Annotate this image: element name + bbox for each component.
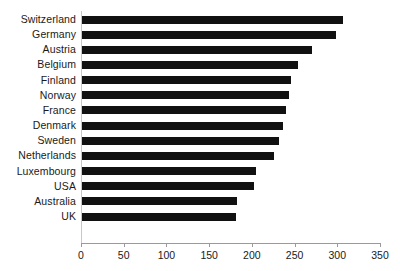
grid-tick xyxy=(81,11,82,243)
bar-row: UK xyxy=(0,209,400,224)
bar-row: Sweden xyxy=(0,133,400,148)
axis-tick xyxy=(81,243,82,247)
bar xyxy=(81,76,291,84)
bar xyxy=(81,167,256,175)
category-label: USA xyxy=(0,179,76,194)
grid-tick xyxy=(295,11,296,243)
category-label: Belgium xyxy=(0,57,76,72)
bar xyxy=(81,16,343,24)
bar-row: Luxembourg xyxy=(0,164,400,179)
category-label: Germany xyxy=(0,27,76,42)
grid-tick xyxy=(337,11,338,243)
category-label: Austria xyxy=(0,42,76,57)
axis-tick xyxy=(166,243,167,247)
axis-tick-label: 250 xyxy=(286,249,304,261)
bar xyxy=(81,46,312,54)
bar xyxy=(81,213,236,221)
bar-row: USA xyxy=(0,179,400,194)
grid-tick xyxy=(209,11,210,243)
bar xyxy=(81,91,289,99)
category-label: UK xyxy=(0,209,76,224)
grid-tick xyxy=(124,11,125,243)
axis-tick xyxy=(295,243,296,247)
category-label: Norway xyxy=(0,88,76,103)
bar-row: Austria xyxy=(0,42,400,57)
bar-row: Belgium xyxy=(0,57,400,72)
category-label: Luxembourg xyxy=(0,164,76,179)
bar xyxy=(81,106,286,114)
grid-tick xyxy=(166,11,167,243)
axis-tick-label: 150 xyxy=(200,249,218,261)
bar xyxy=(81,137,279,145)
bar-row: France xyxy=(0,103,400,118)
axis-tick xyxy=(209,243,210,247)
bar-row: Germany xyxy=(0,27,400,42)
category-label: France xyxy=(0,103,76,118)
axis-tick-label: 200 xyxy=(243,249,261,261)
bar-row: Australia xyxy=(0,194,400,209)
grid-tick xyxy=(252,11,253,243)
bar-row: Finland xyxy=(0,73,400,88)
bar-row: Denmark xyxy=(0,118,400,133)
category-label: Finland xyxy=(0,73,76,88)
category-label: Sweden xyxy=(0,133,76,148)
axis-tick-label: 50 xyxy=(118,249,130,261)
axis-tick-label: 0 xyxy=(78,249,84,261)
category-label: Denmark xyxy=(0,118,76,133)
axis-tick-label: 100 xyxy=(158,249,176,261)
bar-row: Norway xyxy=(0,88,400,103)
plot-area: SwitzerlandGermanyAustriaBelgiumFinlandN… xyxy=(0,0,400,271)
axis-tick xyxy=(124,243,125,247)
axis-tick-label: 300 xyxy=(329,249,347,261)
bar-row: Switzerland xyxy=(0,12,400,27)
bar xyxy=(81,197,237,205)
category-label: Netherlands xyxy=(0,148,76,163)
value-axis-line xyxy=(81,243,380,244)
grid-tick xyxy=(380,11,381,243)
category-label: Switzerland xyxy=(0,12,76,27)
bar-row: Netherlands xyxy=(0,148,400,163)
axis-tick-label: 350 xyxy=(371,249,389,261)
bar xyxy=(81,61,298,69)
bar xyxy=(81,152,274,160)
bar-chart: SwitzerlandGermanyAustriaBelgiumFinlandN… xyxy=(0,0,400,271)
axis-tick xyxy=(337,243,338,247)
category-label: Australia xyxy=(0,194,76,209)
axis-tick xyxy=(252,243,253,247)
axis-tick xyxy=(380,243,381,247)
